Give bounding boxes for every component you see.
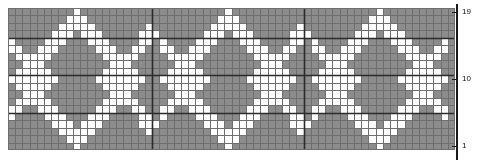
row-tick-10 — [452, 79, 457, 80]
pattern-grid[interactable] — [8, 8, 455, 150]
pattern-grid-canvas[interactable] — [8, 8, 455, 150]
row-label-10: 10 — [462, 75, 471, 83]
knitting-chart: 19 10 1 — [0, 0, 479, 166]
row-tick-19 — [452, 12, 457, 13]
row-tick-1 — [452, 146, 457, 147]
row-label-1: 1 — [462, 142, 466, 150]
row-axis-line — [456, 4, 458, 160]
row-label-19: 19 — [462, 8, 471, 16]
